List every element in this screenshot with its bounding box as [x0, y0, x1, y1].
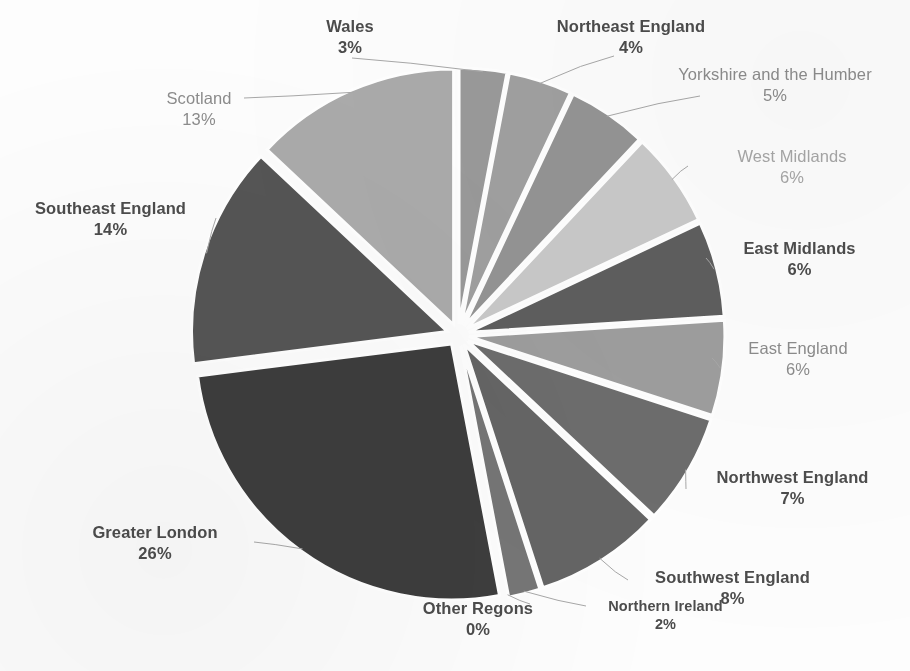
slice-label-southeast-england-value: 14%	[8, 219, 213, 240]
leader-line	[600, 558, 628, 580]
slice-label-greater-london-name: Greater London	[60, 522, 250, 543]
slice-label-northern-ireland-name: Northern Ireland	[583, 597, 748, 615]
slice-label-northern-ireland-value: 2%	[583, 615, 748, 633]
pie-chart-page: Wales 3% Northeast England 4% Yorkshire …	[0, 0, 910, 671]
leader-line	[540, 56, 614, 84]
slice-label-wales-name: Wales	[300, 16, 400, 37]
slice-label-east-england-name: East England	[718, 338, 878, 359]
slice-label-yorkshire-and-the-humber: Yorkshire and the Humber 5%	[650, 64, 900, 105]
slice-label-east-england: East England 6%	[718, 338, 878, 379]
slice-label-northwest-england: Northwest England 7%	[690, 467, 895, 508]
leader-line	[352, 58, 483, 72]
slice-label-northwest-england-name: Northwest England	[690, 467, 895, 488]
slice-label-southwest-england-name: Southwest England	[630, 567, 835, 588]
slice-label-west-midlands: West Midlands 6%	[692, 146, 892, 187]
slice-label-scotland-value: 13%	[134, 109, 264, 130]
slice-label-scotland-name: Scotland	[134, 88, 264, 109]
slice-label-yorkshire-and-the-humber-value: 5%	[650, 85, 900, 106]
slice-label-wales: Wales 3%	[300, 16, 400, 57]
slice-label-other-regions-name: Other Regons	[398, 598, 558, 619]
slice-label-other-regions-value: 0%	[398, 619, 558, 640]
slice-label-other-regions: Other Regons 0%	[398, 598, 558, 639]
slice-label-east-england-value: 6%	[718, 359, 878, 380]
pie-slices-group	[192, 68, 725, 600]
slice-label-southeast-england: Southeast England 14%	[8, 198, 213, 239]
slice-label-greater-london: Greater London 26%	[60, 522, 250, 563]
slice-label-northeast-england-value: 4%	[536, 37, 726, 58]
slice-label-northeast-england: Northeast England 4%	[536, 16, 726, 57]
chart-canvas: Wales 3% Northeast England 4% Yorkshire …	[0, 0, 910, 671]
slice-label-yorkshire-and-the-humber-name: Yorkshire and the Humber	[650, 64, 900, 85]
slice-label-southeast-england-name: Southeast England	[8, 198, 213, 219]
slice-label-west-midlands-value: 6%	[692, 167, 892, 188]
slice-label-northern-ireland: Northern Ireland 2%	[583, 597, 748, 633]
slice-label-northwest-england-value: 7%	[690, 488, 895, 509]
slice-label-scotland: Scotland 13%	[134, 88, 264, 129]
slice-label-east-midlands-value: 6%	[712, 259, 887, 280]
leader-line	[672, 166, 688, 180]
slice-label-east-midlands-name: East Midlands	[712, 238, 887, 259]
slice-label-east-midlands: East Midlands 6%	[712, 238, 887, 279]
slice-label-northeast-england-name: Northeast England	[536, 16, 726, 37]
slice-label-greater-london-value: 26%	[60, 543, 250, 564]
slice-label-wales-value: 3%	[300, 37, 400, 58]
slice-label-west-midlands-name: West Midlands	[692, 146, 892, 167]
